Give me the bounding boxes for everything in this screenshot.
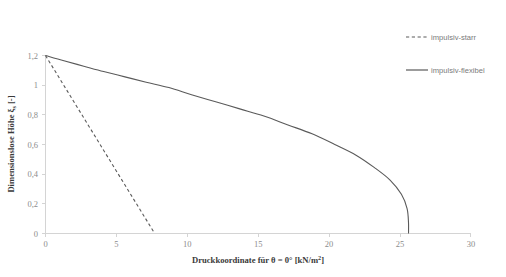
y-tick-label-1: 0,2 bbox=[27, 199, 38, 209]
chart-container: 0 0,2 0,4 0,6 0,8 1 1,2 0 5 10 15 20 25 … bbox=[0, 0, 506, 277]
x-axis-title: Druckkoordinate für θ = 0° [kN/m2] bbox=[192, 254, 324, 265]
y-tick-label-5: 1 bbox=[34, 80, 38, 90]
y-axis-title: Dimensionslose Höhe ξs [-] bbox=[6, 95, 17, 192]
x-tick-label-1: 5 bbox=[114, 239, 118, 249]
legend-label-impulsiv-flexibel: impulsiv-flexibel bbox=[431, 66, 485, 75]
x-tick-label-5: 25 bbox=[396, 239, 405, 249]
x-tick-label-0: 0 bbox=[43, 239, 47, 249]
x-axis-ticks bbox=[46, 234, 471, 238]
y-tick-label-4: 0,8 bbox=[27, 110, 38, 120]
x-tick-label-3: 15 bbox=[254, 239, 263, 249]
chart-svg: 0 0,2 0,4 0,6 0,8 1 1,2 0 5 10 15 20 25 … bbox=[0, 0, 506, 277]
y-tick-label-0: 0 bbox=[34, 229, 38, 239]
legend: impulsiv-starr impulsiv-flexibel bbox=[406, 33, 485, 75]
legend-label-impulsiv-starr: impulsiv-starr bbox=[431, 33, 477, 42]
y-tick-label-2: 0,4 bbox=[27, 169, 38, 179]
series-impulsiv-starr bbox=[46, 56, 155, 234]
x-tick-label-6: 30 bbox=[467, 239, 476, 249]
x-tick-label-4: 20 bbox=[325, 239, 334, 249]
series-impulsiv-flexibel bbox=[46, 56, 409, 234]
y-tick-label-3: 0,6 bbox=[27, 140, 38, 150]
y-axis-ticks bbox=[42, 56, 46, 234]
y-tick-label-6: 1,2 bbox=[27, 51, 38, 61]
page-edge-artifact bbox=[8, 268, 478, 272]
x-tick-label-2: 10 bbox=[183, 239, 192, 249]
